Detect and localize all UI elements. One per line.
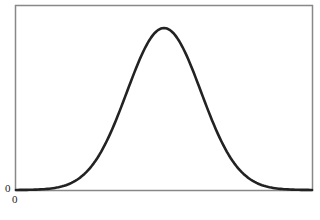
density-chart — [0, 0, 320, 220]
plot-frame — [16, 6, 313, 191]
density-curve — [16, 28, 312, 190]
x-axis-zero-label: 0 — [12, 194, 18, 205]
y-axis-zero-label: 0 — [5, 183, 11, 194]
